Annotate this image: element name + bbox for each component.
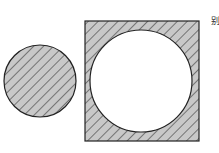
shaded-circle [4,45,76,117]
geometry-diagram [0,0,219,153]
shaded-square [85,21,199,141]
inner-circle-hole [90,30,192,132]
figure-label: 别 [211,14,219,27]
